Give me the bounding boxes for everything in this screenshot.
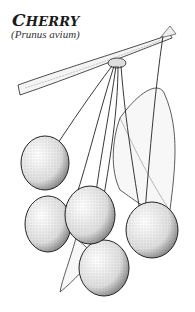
branch [18, 26, 176, 95]
cherry-illustration [0, 0, 195, 312]
